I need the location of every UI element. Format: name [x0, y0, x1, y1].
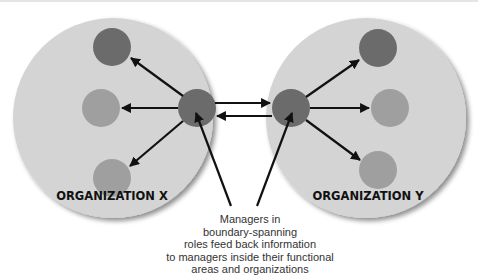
boundary-manager-x [178, 89, 216, 127]
node-y-middle [371, 89, 409, 127]
organization-y-label: ORGANIZATION Y [312, 189, 424, 203]
caption-line: to managers inside their functional [150, 251, 350, 264]
node-x-middle [82, 89, 120, 127]
caption-line: areas and organizations [150, 263, 350, 276]
organization-y: ORGANIZATION Y [266, 18, 466, 218]
caption-line: Managers in [150, 213, 350, 226]
node-y-top [359, 29, 397, 67]
organization-x: ORGANIZATION X [13, 18, 216, 218]
diagram-caption: Managers in boundary-spanning roles feed… [150, 213, 350, 276]
node-y-bottom [359, 151, 397, 189]
caption-line: roles feed back information [150, 238, 350, 251]
organization-x-label: ORGANIZATION X [56, 189, 168, 203]
caption-line: boundary-spanning [150, 226, 350, 239]
node-x-top [93, 28, 131, 66]
cross-arrows [215, 103, 272, 116]
boundary-manager-y [272, 89, 310, 127]
